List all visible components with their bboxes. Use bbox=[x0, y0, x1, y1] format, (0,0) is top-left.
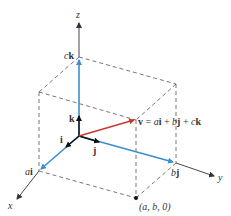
k-label: k bbox=[69, 113, 75, 124]
vector-v-equation: v = ai + bj + ck bbox=[138, 116, 202, 127]
j-label: j bbox=[92, 145, 96, 156]
ck-label: ck bbox=[64, 50, 74, 61]
box-edge-bottom-front bbox=[39, 171, 136, 198]
y-axis bbox=[176, 163, 214, 176]
point-a-b-0 bbox=[134, 196, 138, 200]
i-unit-vector bbox=[66, 136, 79, 147]
point-label: (a, b, 0) bbox=[139, 201, 171, 213]
i-label: i bbox=[60, 134, 63, 145]
box-edge-top-left bbox=[39, 57, 79, 92]
component-vectors bbox=[41, 60, 173, 169]
box-edge-bottom-right bbox=[136, 163, 176, 198]
vector-diagram: z x y ck ai bj k i j v = ai + bj + ck (a… bbox=[0, 0, 231, 216]
ai-label: ai bbox=[25, 166, 33, 177]
vector-v bbox=[79, 120, 134, 136]
bj-label: bj bbox=[171, 167, 179, 178]
j-unit-vector bbox=[79, 136, 99, 142]
box-edge-top-front bbox=[39, 92, 136, 120]
x-axis-label: x bbox=[7, 200, 13, 211]
y-axis-label: y bbox=[217, 172, 223, 183]
box-edge-top-back bbox=[79, 57, 176, 84]
axes bbox=[17, 23, 214, 199]
z-axis-label: z bbox=[75, 9, 80, 20]
box-edge-top-right bbox=[136, 84, 176, 120]
